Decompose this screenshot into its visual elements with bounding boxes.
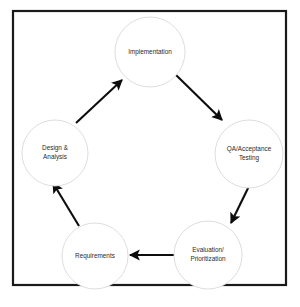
node-layer: ImplementationQA/AcceptanceTestingEvalua…	[22, 17, 283, 289]
node-evaluation-prioritization[interactable]: Evaluation/Prioritization	[174, 221, 242, 289]
node-design-analysis[interactable]: Design &Analysis	[22, 120, 88, 186]
arrow-implementation-to-qa	[176, 75, 222, 120]
node-implementation[interactable]: Implementation	[115, 17, 185, 87]
node-requirements[interactable]: Requirements	[62, 223, 128, 289]
node-label-evaluation-prioritization: Prioritization	[190, 255, 226, 262]
arrow-requirements-to-design	[53, 183, 79, 226]
arrow-design-to-implementation	[76, 80, 122, 123]
node-label-qa-acceptance-testing: Testing	[239, 154, 260, 162]
node-label-design-analysis: Analysis	[43, 153, 67, 161]
node-label-implementation: Implementation	[128, 48, 172, 56]
node-qa-acceptance-testing[interactable]: QA/AcceptanceTesting	[215, 120, 283, 188]
cycle-diagram: ImplementationQA/AcceptanceTestingEvalua…	[0, 0, 300, 307]
diagram-canvas: ImplementationQA/AcceptanceTestingEvalua…	[0, 0, 300, 307]
node-label-evaluation-prioritization: Evaluation/	[192, 246, 224, 253]
node-label-qa-acceptance-testing: QA/Acceptance	[227, 145, 272, 153]
node-label-design-analysis: Design &	[42, 144, 69, 152]
node-label-requirements: Requirements	[75, 252, 115, 260]
